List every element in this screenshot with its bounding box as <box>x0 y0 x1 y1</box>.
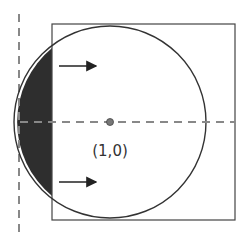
center-point <box>107 119 114 126</box>
center-label: (1,0) <box>92 142 128 160</box>
diagram-canvas: (1,0) <box>0 0 237 240</box>
